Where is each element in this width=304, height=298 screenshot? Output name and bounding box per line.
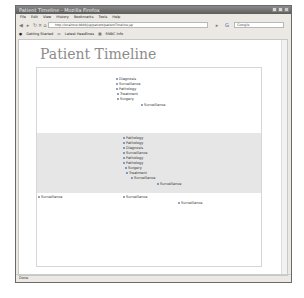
timeline-event[interactable]: Pathology — [123, 156, 143, 160]
timeline-event[interactable]: Pathology — [116, 87, 136, 91]
menu-bookmarks[interactable]: Bookmarks — [74, 15, 94, 19]
event-marker-icon — [131, 177, 133, 179]
timeline-event[interactable]: Pathology — [123, 141, 143, 145]
timeline-event[interactable]: Surveillance — [157, 182, 181, 186]
bookmark-label: RNBC Info — [106, 32, 124, 36]
timeline-event[interactable]: Surveillance — [38, 195, 62, 199]
event-label: Pathology — [126, 141, 143, 145]
timeline-event[interactable]: Pathology — [123, 161, 143, 165]
status-bar: Done — [16, 274, 291, 282]
timeline-event[interactable]: Surgery — [117, 97, 134, 101]
bookmark-latest-headlines[interactable]: ▭ Latest Headlines — [57, 32, 94, 36]
timeline-event[interactable]: Surveillance — [123, 195, 147, 199]
event-label: Surveillance — [144, 103, 165, 107]
event-marker-icon — [123, 196, 125, 198]
event-label: Diagnosis — [119, 77, 136, 81]
timeline-event[interactable]: Surveillance — [123, 151, 147, 155]
timeline-event[interactable]: Surveillance — [178, 201, 202, 205]
page-content: Patient Timeline Diagnosis Surveillance … — [18, 39, 288, 276]
navigation-toolbar: ◀ ▸ ↻ ✕ ⌂ http://localhost:8080/jsp/pati… — [16, 20, 291, 30]
menu-help[interactable]: Help — [112, 15, 120, 19]
event-label: Surveillance — [181, 201, 202, 205]
event-marker-icon — [123, 152, 125, 154]
close-button[interactable] — [284, 7, 289, 12]
event-marker-icon — [123, 142, 125, 144]
bookmarks-toolbar: ● Getting Started ▭ Latest Headlines ▤ R… — [16, 30, 291, 38]
event-marker-icon — [123, 137, 125, 139]
event-marker-icon — [126, 172, 128, 174]
event-label: Pathology — [126, 161, 143, 165]
timeline-event[interactable]: Pathology — [123, 136, 143, 140]
status-text: Done — [19, 276, 28, 280]
search-input[interactable]: Google — [234, 22, 284, 28]
patient-timeline[interactable]: Diagnosis Surveillance Pathology Treatme… — [36, 67, 262, 267]
title-bar: Patient Timeline - Mozilla Firefox — [16, 6, 291, 14]
event-label: Surgery — [120, 97, 134, 101]
event-marker-icon — [117, 93, 119, 95]
url-input[interactable]: http://localhost:8080/jsp/patient/patien… — [48, 22, 208, 28]
menu-history[interactable]: History — [56, 15, 68, 19]
timeline-event[interactable]: Treatment — [126, 171, 147, 175]
event-marker-icon — [116, 78, 118, 80]
event-marker-icon — [38, 196, 40, 198]
event-marker-icon — [125, 167, 127, 169]
event-marker-icon — [157, 183, 159, 185]
event-marker-icon — [123, 162, 125, 164]
event-marker-icon — [123, 147, 125, 149]
event-marker-icon — [116, 83, 118, 85]
timeline-event[interactable]: Surveillance — [116, 82, 140, 86]
timeline-event[interactable]: Surgery — [125, 166, 142, 170]
event-marker-icon — [178, 202, 180, 204]
vertical-scrollbar[interactable] — [281, 40, 287, 275]
page-title: Patient Timeline — [40, 46, 156, 62]
event-label: Pathology — [126, 136, 143, 140]
event-label: Diagnosis — [126, 146, 143, 150]
search-engine-icon[interactable]: G — [224, 22, 230, 28]
menu-tools[interactable]: Tools — [99, 15, 108, 19]
back-icon[interactable]: ◀ — [18, 22, 24, 28]
menu-view[interactable]: View — [43, 15, 51, 19]
maximize-button[interactable] — [278, 7, 283, 12]
event-label: Surgery — [128, 166, 142, 170]
event-label: Pathology — [126, 156, 143, 160]
browser-window: Patient Timeline - Mozilla Firefox File … — [15, 5, 292, 283]
event-marker-icon — [116, 88, 118, 90]
timeline-band-top — [37, 68, 261, 133]
go-icon[interactable]: ▸ — [214, 22, 220, 28]
event-label: Surveillance — [126, 151, 147, 155]
event-marker-icon — [117, 98, 119, 100]
timeline-event[interactable]: Treatment — [117, 92, 138, 96]
minimize-button[interactable] — [272, 7, 277, 12]
menu-edit[interactable]: Edit — [31, 15, 38, 19]
event-label: Surveillance — [134, 176, 155, 180]
event-label: Treatment — [120, 92, 138, 96]
timeline-event[interactable]: Diagnosis — [116, 77, 136, 81]
bookmark-label: Latest Headlines — [65, 32, 94, 36]
window-title: Patient Timeline - Mozilla Firefox — [19, 6, 100, 14]
event-label: Surveillance — [126, 195, 147, 199]
event-label: Surveillance — [41, 195, 62, 199]
event-label: Surveillance — [119, 82, 140, 86]
bookmark-label: Getting Started — [26, 32, 53, 36]
bookmark-getting-started[interactable]: ● Getting Started — [19, 32, 53, 36]
event-label: Surveillance — [160, 182, 181, 186]
timeline-event[interactable]: Surveillance — [141, 103, 165, 107]
menu-file[interactable]: File — [20, 15, 26, 19]
timeline-band-middle — [37, 133, 261, 193]
event-label: Treatment — [129, 171, 147, 175]
timeline-event[interactable]: Diagnosis — [123, 146, 143, 150]
event-marker-icon — [141, 104, 143, 106]
forward-icon[interactable]: ▸ — [25, 22, 31, 28]
bookmark-rnbc-info[interactable]: ▤ RNBC Info — [98, 32, 123, 36]
timeline-band-bottom — [37, 193, 261, 268]
timeline-event[interactable]: Surveillance — [131, 176, 155, 180]
event-label: Pathology — [119, 87, 136, 91]
event-marker-icon — [123, 157, 125, 159]
